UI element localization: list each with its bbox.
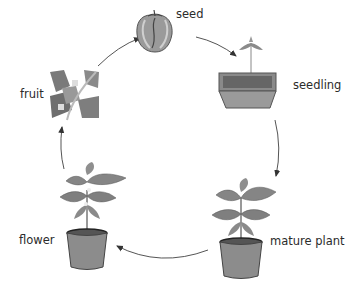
seedling-icon [219,36,276,108]
flower-plant-icon [60,162,126,270]
label-flower: flower [19,233,55,247]
label-seedling: seedling [293,78,341,92]
label-mature-plant: mature plant [270,234,345,248]
arrow-seedling-to-mature [275,120,279,176]
diagram-canvas [0,0,352,297]
mature-plant-icon [212,178,276,279]
arrow-mature-to-flower [117,246,208,258]
seed-icon [137,10,172,52]
arrow-fruit-to-seed [98,38,140,66]
life-cycle-diagram: seed seedling mature plant flower fruit [0,0,352,297]
label-fruit: fruit [20,87,44,101]
label-seed: seed [176,7,203,21]
arrow-seed-to-seedling [196,37,236,56]
arrow-flower-to-fruit [61,127,64,169]
fruit-icon [49,70,99,120]
